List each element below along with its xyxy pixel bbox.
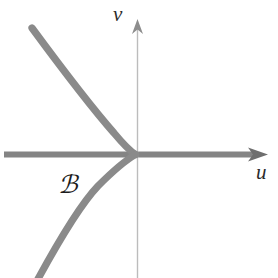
v-axis-label: v <box>113 4 122 25</box>
v-axis <box>132 19 143 278</box>
curve-b-label: ℬ <box>58 172 78 197</box>
curve-b-upper-branch <box>32 28 136 155</box>
curve-b-lower-branch <box>38 155 136 278</box>
u-axis-label: u <box>256 162 267 183</box>
cusp-curve-figure: v u ℬ <box>0 0 278 278</box>
diagram-canvas <box>0 0 278 278</box>
